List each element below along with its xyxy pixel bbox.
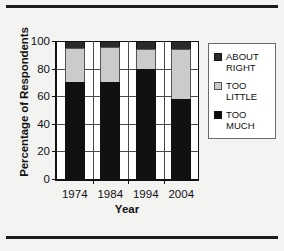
x-axis-tick	[164, 179, 165, 184]
bar-segment-too-little	[136, 49, 156, 68]
chart-legend: ABOUT RIGHT TOO LITTLE TOO MUCH	[208, 43, 276, 139]
legend-item-about-right[interactable]: ABOUT RIGHT	[214, 51, 271, 73]
bar-segment-about-right	[65, 41, 85, 48]
bar-segment-too-much	[65, 82, 85, 179]
y-axis-tick-label: 20	[37, 145, 50, 157]
bar-1974[interactable]	[65, 41, 85, 179]
top-horizontal-rule	[6, 5, 278, 8]
bar-segment-about-right	[171, 41, 191, 49]
y-axis-tick-label: 80	[37, 63, 50, 75]
y-axis-tick-label: 0	[44, 173, 50, 185]
y-axis-tick	[52, 179, 57, 180]
bar-segment-too-much	[136, 69, 156, 179]
plot-area: 0204060801001974198419942004	[55, 41, 199, 181]
about-right-swatch	[214, 53, 222, 61]
bar-segment-too-much	[171, 99, 191, 179]
y-axis-tick	[52, 69, 57, 70]
bar-2004[interactable]	[171, 41, 191, 179]
y-axis-tick	[52, 151, 57, 152]
y-axis-tick	[52, 124, 57, 125]
bar-1984[interactable]	[100, 41, 120, 179]
x-axis-tick-label: 1994	[133, 188, 159, 200]
category-separator	[93, 41, 94, 179]
bar-segment-about-right	[136, 41, 156, 49]
legend-item-too-much[interactable]: TOO MUCH	[214, 109, 271, 131]
legend-label-too-little: TOO LITTLE	[226, 80, 257, 102]
x-axis-tick-label: 2004	[168, 188, 194, 200]
category-separator	[128, 41, 129, 179]
bar-segment-too-much	[100, 82, 120, 179]
bottom-horizontal-rule	[6, 236, 278, 239]
bar-segment-too-little	[171, 49, 191, 99]
x-axis-title: Year	[55, 203, 199, 215]
plot-right-border	[198, 41, 199, 179]
legend-label-about-right: ABOUT RIGHT	[226, 51, 259, 73]
bar-1994[interactable]	[136, 41, 156, 179]
x-axis-tick	[128, 179, 129, 184]
category-separator	[164, 41, 165, 179]
y-axis-tick-label: 60	[37, 90, 50, 102]
plot-inner: 0204060801001974198419942004	[57, 41, 199, 179]
x-axis-tick	[93, 179, 94, 184]
too-much-swatch	[214, 111, 222, 119]
y-axis-tick	[52, 96, 57, 97]
bar-segment-too-little	[100, 47, 120, 83]
legend-item-too-little[interactable]: TOO LITTLE	[214, 80, 271, 102]
bar-segment-about-right	[100, 41, 120, 47]
y-axis-tick-label: 100	[31, 35, 50, 47]
y-axis-tick	[52, 41, 57, 42]
bar-segment-too-little	[65, 48, 85, 83]
too-little-swatch	[214, 82, 222, 90]
y-axis-title: Percentage of Respondents	[18, 22, 30, 182]
x-axis-tick-label: 1974	[62, 188, 88, 200]
x-axis-tick-label: 1984	[97, 188, 123, 200]
legend-label-too-much: TOO MUCH	[226, 109, 255, 131]
chart-figure: Percentage of Respondents 02040608010019…	[0, 12, 284, 234]
y-axis-tick-label: 40	[37, 118, 50, 130]
